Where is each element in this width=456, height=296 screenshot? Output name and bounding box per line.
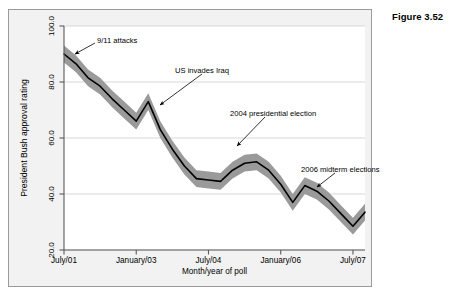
xtick-label-1: January/03 xyxy=(101,256,171,265)
annotation-label-911: 9/11 attacks xyxy=(97,36,137,45)
annotation-label-2004-election: 2004 presidential election xyxy=(230,109,316,118)
ytick-label-2: 60.0 xyxy=(46,121,58,155)
ytick-label-3: 40.0 xyxy=(46,177,58,211)
chart-frame: 100.0 80.0 60.0 40.0 20.0 July/01 Januar… xyxy=(8,9,372,287)
x-axis-title: Month/year of poll xyxy=(135,267,295,276)
xtick-label-4: July/07 xyxy=(318,256,388,265)
ytick-label-0: 100.0 xyxy=(46,9,58,43)
xtick-label-0: July/01 xyxy=(29,256,99,265)
xtick-label-3: January/06 xyxy=(246,256,316,265)
annotation-label-iraq: US invades Iraq xyxy=(175,66,229,75)
annotation-label-2006-midterms: 2006 midterm elections xyxy=(301,165,380,174)
plot-area: 100.0 80.0 60.0 40.0 20.0 July/01 Januar… xyxy=(9,10,373,288)
y-axis-title: President Bush approval rating xyxy=(18,53,30,223)
ytick-label-1: 80.0 xyxy=(46,65,58,99)
chart-canvas xyxy=(9,10,373,288)
figure-caption: Figure 3.52 xyxy=(392,11,443,22)
xtick-label-2: July/04 xyxy=(173,256,243,265)
